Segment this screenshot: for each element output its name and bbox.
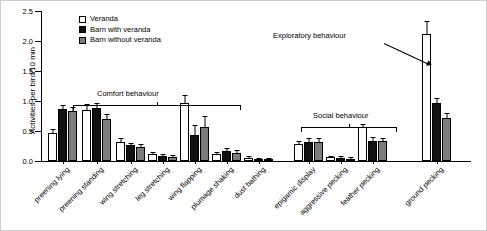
error-bar <box>268 159 269 160</box>
bar[interactable] <box>244 158 253 161</box>
error-bar-cap <box>182 95 187 96</box>
bar-slot[interactable] <box>212 11 221 161</box>
bar-group <box>47 11 78 161</box>
bar-slot[interactable] <box>48 11 57 161</box>
bar[interactable] <box>432 103 441 161</box>
error-bar-cap <box>348 157 353 158</box>
bar[interactable] <box>82 110 91 161</box>
error-bar-cap <box>306 138 311 139</box>
bar[interactable] <box>116 142 125 161</box>
error-bar-cap <box>202 116 207 117</box>
error-bar-cap <box>234 150 239 151</box>
error-bar <box>236 151 237 153</box>
bar-slot[interactable] <box>180 11 189 161</box>
bar-group <box>357 11 388 161</box>
legend-label-barn-with-veranda: Barn with veranda <box>90 25 150 36</box>
bar[interactable] <box>168 157 177 161</box>
bar[interactable] <box>92 108 101 161</box>
y-tick-label: 2.0 <box>9 37 33 46</box>
bar-group <box>179 11 210 161</box>
bar-slot[interactable] <box>264 11 273 161</box>
y-tick <box>35 161 41 162</box>
bar-slot[interactable] <box>378 11 387 161</box>
error-bar <box>194 126 195 134</box>
error-bar-cap <box>138 144 143 145</box>
bar[interactable] <box>190 135 199 161</box>
x-axis-line <box>41 161 471 162</box>
bar[interactable] <box>136 147 145 161</box>
bar[interactable] <box>358 127 367 161</box>
bar[interactable] <box>48 133 57 161</box>
bar[interactable] <box>58 109 67 161</box>
error-bar <box>152 153 153 154</box>
bar-slot[interactable] <box>68 11 77 161</box>
bar-group <box>211 11 242 161</box>
x-tick <box>309 161 310 164</box>
error-bar <box>426 22 427 34</box>
error-bar <box>62 106 63 110</box>
legend-swatch-veranda <box>79 16 86 23</box>
bar[interactable] <box>126 145 135 161</box>
y-tick-label: 2.5 <box>9 7 33 16</box>
bar[interactable] <box>102 119 111 161</box>
bar-slot[interactable] <box>422 11 431 161</box>
bar-slot[interactable] <box>442 11 451 161</box>
error-bar-cap <box>256 158 261 159</box>
bar-slot[interactable] <box>254 11 263 161</box>
error-bar-cap <box>328 156 333 157</box>
comfort-behaviour-brace <box>73 105 241 110</box>
bar-slot[interactable] <box>58 11 67 161</box>
error-bar <box>130 144 131 146</box>
bar-slot[interactable] <box>358 11 367 161</box>
bar-slot[interactable] <box>232 11 241 161</box>
bar-slot[interactable] <box>346 11 355 161</box>
bar-slot[interactable] <box>244 11 253 161</box>
bar[interactable] <box>422 34 431 161</box>
x-tick <box>63 161 64 164</box>
error-bar-cap <box>434 98 439 99</box>
error-bar <box>216 153 217 154</box>
bar[interactable] <box>442 118 451 161</box>
bar[interactable] <box>212 154 221 161</box>
error-bar-cap <box>104 114 109 115</box>
bar[interactable] <box>180 103 189 161</box>
x-tick-label: ground pecking <box>402 165 445 208</box>
social-behaviour-brace <box>301 127 397 132</box>
bar[interactable] <box>314 142 323 161</box>
legend-swatch-barn-with-veranda <box>79 26 86 33</box>
error-bar-cap <box>444 113 449 114</box>
bar-slot[interactable] <box>168 11 177 161</box>
bar[interactable] <box>294 144 303 161</box>
bar[interactable] <box>222 151 231 161</box>
bar-slot[interactable] <box>222 11 231 161</box>
error-bar-cap <box>170 155 175 156</box>
error-bar <box>140 145 141 147</box>
error-bar <box>226 149 227 151</box>
error-bar-cap <box>380 138 385 139</box>
bar-group <box>243 11 274 161</box>
bar-slot[interactable] <box>200 11 209 161</box>
bar[interactable] <box>304 142 313 161</box>
bar[interactable] <box>200 127 209 161</box>
error-bar-cap <box>424 21 429 22</box>
bar[interactable] <box>346 159 355 161</box>
error-bar-cap <box>118 138 123 139</box>
bar-slot[interactable] <box>368 11 377 161</box>
bar[interactable] <box>68 111 77 161</box>
bar[interactable] <box>232 153 241 161</box>
error-bar <box>184 96 185 103</box>
bar[interactable] <box>326 157 335 161</box>
x-tick <box>131 161 132 164</box>
bar[interactable] <box>148 154 157 161</box>
error-bar-cap <box>266 158 271 159</box>
bar[interactable] <box>378 141 387 161</box>
legend-item-barn-with-veranda: Barn with veranda <box>79 25 161 36</box>
bar-slot[interactable] <box>432 11 441 161</box>
error-bar-cap <box>192 125 197 126</box>
bar-slot[interactable] <box>190 11 199 161</box>
y-tick-label: 1.0 <box>9 97 33 106</box>
bar[interactable] <box>368 141 377 161</box>
error-bar-cap <box>360 124 365 125</box>
error-bar-cap <box>296 141 301 142</box>
error-bar-cap <box>246 156 251 157</box>
